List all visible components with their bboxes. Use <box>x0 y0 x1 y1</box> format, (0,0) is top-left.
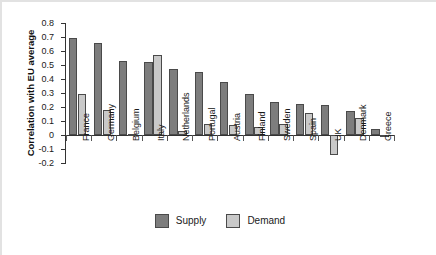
y-axis-tick-label: 0 <box>49 131 54 140</box>
bar-supply <box>270 102 279 135</box>
bar-group <box>270 23 295 163</box>
y-axis-tick-label: 0.5 <box>41 61 54 70</box>
bar-supply <box>371 129 380 135</box>
bar-demand <box>153 55 162 135</box>
x-axis-tick <box>369 135 370 141</box>
x-axis-tick <box>293 135 294 141</box>
y-axis-tick: 0.4 <box>61 79 66 80</box>
x-axis-tick <box>268 135 269 141</box>
category-label: Denmark <box>359 104 368 141</box>
bar-group <box>195 23 220 163</box>
x-axis-tick <box>217 135 218 141</box>
bar-group <box>119 23 144 163</box>
bar-supply <box>169 69 178 135</box>
plot-area: 0.80.70.60.50.40.30.20.10-0.1-0.2 France… <box>66 23 394 163</box>
category-label: Sweden <box>283 108 292 141</box>
y-axis-tick-label: 0.3 <box>41 89 54 98</box>
bar-group <box>94 23 119 163</box>
bar-supply <box>220 82 229 135</box>
legend-label-supply: Supply <box>176 216 207 226</box>
bar-supply <box>195 72 204 135</box>
bar-supply <box>245 94 254 135</box>
y-axis-tick-label: -0.2 <box>38 159 54 168</box>
bar-group <box>245 23 270 163</box>
category-label: Greece <box>384 111 393 141</box>
bar-chart: Correlation with EU average 0.80.70.60.5… <box>2 2 436 255</box>
x-axis-tick <box>66 135 67 141</box>
y-axis-title: Correlation with EU average <box>24 23 38 163</box>
y-axis-tick-label: 0.2 <box>41 103 54 112</box>
category-label: Germany <box>107 104 116 141</box>
y-axis-tick: 0.8 <box>61 23 66 24</box>
x-axis-tick <box>142 135 143 141</box>
category-label: France <box>82 113 91 141</box>
x-axis-tick <box>394 135 395 141</box>
y-axis-tick: 0.3 <box>61 93 66 94</box>
x-axis-tick <box>192 135 193 141</box>
x-axis-tick <box>344 135 345 141</box>
bar-group <box>220 23 245 163</box>
legend-item-supply: Supply <box>155 214 207 228</box>
category-label: Netherlands <box>182 92 191 141</box>
bar-supply <box>119 61 128 135</box>
bar-group <box>296 23 321 163</box>
y-axis-tick: -0.2 <box>61 163 66 164</box>
bar-supply <box>296 104 305 135</box>
bar-group <box>321 23 346 163</box>
category-label: Finland <box>258 111 267 141</box>
category-label: Italy <box>157 124 166 141</box>
y-axis-tick: 0.5 <box>61 65 66 66</box>
y-axis-tick: 0.7 <box>61 37 66 38</box>
x-axis-tick <box>91 135 92 141</box>
x-axis-tick <box>243 135 244 141</box>
bar-group <box>144 23 169 163</box>
y-axis-tick: -0.1 <box>61 149 66 150</box>
bar-supply <box>69 38 78 135</box>
bar-supply <box>321 105 330 135</box>
bar-supply <box>346 111 355 136</box>
bar-supply <box>94 43 103 135</box>
bar-group <box>371 23 396 163</box>
category-label: Austria <box>233 113 242 141</box>
bar-group <box>69 23 94 163</box>
category-label: Belgium <box>132 108 141 141</box>
y-axis-tick: 0.6 <box>61 51 66 52</box>
x-axis-tick <box>318 135 319 141</box>
y-axis-tick: 0.2 <box>61 107 66 108</box>
y-axis-tick-label: 0.6 <box>41 47 54 56</box>
bar-group <box>346 23 371 163</box>
bar-supply <box>144 62 153 135</box>
x-axis-tick <box>116 135 117 141</box>
legend-label-demand: Demand <box>247 216 285 226</box>
y-axis-tick-label: 0.8 <box>41 19 54 28</box>
legend-item-demand: Demand <box>226 214 285 228</box>
category-label: Portugal <box>208 107 217 141</box>
legend-swatch-demand <box>226 214 240 228</box>
y-axis-tick-label: 0.1 <box>41 117 54 126</box>
y-axis-tick-label: 0.4 <box>41 75 54 84</box>
category-label: Spain <box>309 118 318 141</box>
chart-page: Correlation with EU average 0.80.70.60.5… <box>0 0 436 255</box>
y-axis-tick-label: -0.1 <box>38 145 54 154</box>
x-axis-tick <box>167 135 168 141</box>
legend-swatch-supply <box>155 214 169 228</box>
category-label: UK <box>334 128 343 141</box>
y-axis-tick: 0.1 <box>61 121 66 122</box>
y-axis-tick-label: 0.7 <box>41 33 54 42</box>
chart-legend: Supply Demand <box>2 214 436 228</box>
